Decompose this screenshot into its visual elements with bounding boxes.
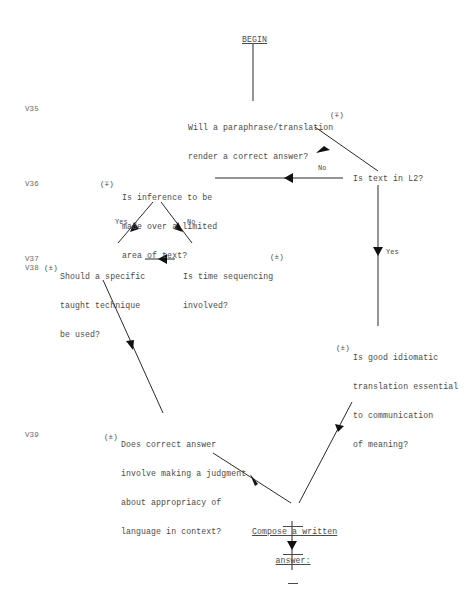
sign-marker-idiomatic: (±) [336, 344, 350, 354]
variable-label-v39: V39 [25, 431, 39, 441]
question-judgment-line-1: Does correct answer [121, 440, 246, 450]
sign-marker-paraphrase: (∓) [330, 111, 344, 121]
sign-marker-time: (±) [270, 253, 284, 263]
question-idiomatic-line-1: Is good idiomatic [353, 353, 458, 363]
flowchart: BEGIN V35 V36 V37 V38 V39 Will a paraphr… [0, 0, 476, 606]
question-l2: Is text in L2? [353, 174, 423, 184]
end-node-line-2: answer: [252, 556, 334, 566]
question-time-line-2: involved? [183, 301, 273, 311]
sign-marker-judgment: (±) [104, 433, 118, 443]
variable-label-v35: V35 [25, 105, 39, 115]
arrowhead-judgment-compose [250, 474, 258, 486]
question-technique: Should a specific taught technique be us… [60, 253, 145, 359]
question-judgment: Does correct answer involve making a jud… [121, 421, 246, 555]
arrowhead-l2-yes [373, 247, 383, 256]
question-idiomatic-line-2: translation essential [353, 382, 458, 392]
edge-label-l2-yes: Yes [386, 248, 399, 258]
variable-label-v36: V36 [25, 180, 39, 190]
question-judgment-line-2: involve making a judgment [121, 469, 246, 479]
begin-node: BEGIN [242, 35, 267, 45]
question-inference-line-2: made over a limited [122, 222, 217, 232]
edge-idiomatic-to-compose [299, 402, 352, 503]
question-technique-line-3: be used? [60, 330, 145, 340]
question-paraphrase-line-2: render a correct answer? [188, 152, 333, 162]
question-idiomatic-line-3: to communication [353, 411, 458, 421]
question-technique-line-2: taught technique [60, 301, 145, 311]
question-judgment-line-4: language in context? [121, 527, 246, 537]
question-technique-line-1: Should a specific [60, 272, 145, 282]
question-inference-line-1: Is inference to be [122, 193, 217, 203]
variable-label-v38: V38 [25, 264, 39, 274]
question-paraphrase: Will a paraphrase/translation render a c… [188, 104, 333, 181]
edge-label-inference-no: No [187, 218, 196, 228]
question-time-line-1: Is time sequencing [183, 272, 273, 282]
question-idiomatic: Is good idiomatic translation essential … [353, 334, 458, 468]
question-time-sequencing: Is time sequencing involved? [183, 253, 273, 330]
question-judgment-line-3: about appropriacy of [121, 498, 246, 508]
end-node-line-1: Compose a written [252, 527, 334, 537]
question-idiomatic-line-4: of meaning? [353, 440, 458, 450]
question-paraphrase-line-1: Will a paraphrase/translation [188, 123, 333, 133]
end-node-compose: Compose a written answer: [252, 508, 334, 585]
edge-label-inference-yes: Yes [115, 218, 128, 228]
sign-marker-inference: (∓) [100, 180, 114, 190]
edge-label-l2-no: No [318, 164, 327, 174]
sign-marker-technique: (±) [44, 264, 58, 274]
